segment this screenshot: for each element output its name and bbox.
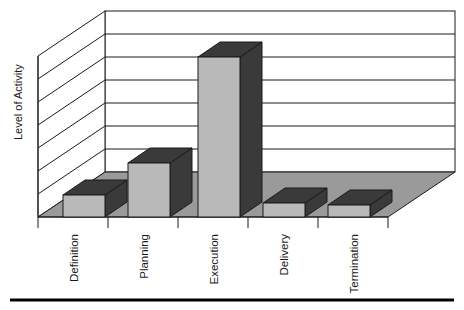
x-label-definition: Definition [68, 234, 80, 282]
x-label-planning: Planning [138, 234, 150, 279]
bar-front-face [328, 205, 370, 217]
chart-container: Definition Planning Execution Delivery T… [0, 0, 464, 310]
x-label-execution: Execution [208, 234, 220, 285]
x-axis-labels: Definition Planning Execution Delivery T… [68, 234, 360, 294]
bar-front-face [63, 195, 105, 217]
x-label-delivery: Delivery [278, 234, 290, 276]
bar-front-face [128, 163, 170, 217]
bar-planning[interactable] [128, 148, 192, 217]
y-axis-title-group: Level of Activity [12, 64, 24, 140]
bar-front-face [263, 203, 305, 217]
x-axis-ticks [38, 217, 388, 228]
bar-execution[interactable] [198, 42, 262, 217]
bar-front-face [198, 57, 240, 217]
y-axis-title: Level of Activity [12, 64, 24, 140]
bar-side-face [240, 42, 262, 217]
x-label-termination: Termination [348, 234, 360, 293]
three-d-bar-chart: Definition Planning Execution Delivery T… [0, 0, 464, 310]
